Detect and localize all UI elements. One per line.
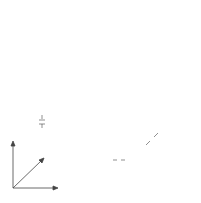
grid-cube-diagram xyxy=(0,0,201,203)
axes xyxy=(11,141,58,190)
eta-arrow-icon xyxy=(11,141,15,146)
xi-axis-line xyxy=(13,160,42,188)
zeta-arrow-icon xyxy=(53,186,58,190)
delta-markers xyxy=(39,115,158,160)
